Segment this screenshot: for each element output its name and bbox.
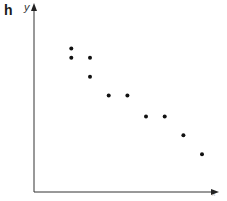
data-point	[69, 46, 73, 50]
data-point	[200, 152, 204, 156]
data-point	[88, 75, 92, 79]
y-axis-arrow-icon	[31, 3, 37, 11]
data-point	[88, 56, 92, 60]
data-point	[163, 114, 167, 118]
data-point	[181, 133, 185, 137]
data-point	[125, 94, 129, 98]
scatter-plot	[0, 0, 227, 201]
data-point	[144, 114, 148, 118]
x-axis-arrow-icon	[211, 189, 219, 195]
data-points	[69, 46, 204, 156]
y-axis	[31, 3, 37, 192]
data-point	[107, 94, 111, 98]
data-point	[69, 56, 73, 60]
x-axis	[34, 189, 219, 195]
